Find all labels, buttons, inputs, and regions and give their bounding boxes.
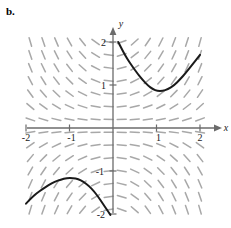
slope-field-segment [55, 206, 59, 214]
slope-field-segment [185, 180, 189, 188]
slope-field-segment [27, 104, 34, 110]
slope-field-segment [171, 167, 177, 174]
slope-field-segment [172, 206, 175, 214]
slope-field-segment [78, 132, 87, 133]
slope-field-segment [198, 77, 202, 85]
slope-field-segment [117, 80, 126, 82]
slope-field-segment [131, 92, 139, 95]
slope-field-segment [172, 193, 176, 201]
slope-field-segment [91, 79, 99, 82]
slope-field-segment [131, 194, 138, 199]
slope-field-segment [131, 79, 139, 83]
slope-field-segment [145, 51, 151, 58]
slope-field-segment [117, 208, 126, 211]
slope-field-layer [26, 38, 205, 214]
slope-field-segment [144, 156, 152, 160]
slope-field-segment [104, 158, 113, 159]
slope-field-segment [117, 158, 126, 159]
slope-field-segment [185, 51, 188, 59]
slope-field-segment [79, 78, 86, 83]
slope-field-segment [196, 118, 204, 121]
x-tick-label: 2 [198, 132, 203, 143]
slope-field-segment [91, 92, 100, 95]
slope-field-segment [198, 180, 202, 188]
x-tick-label: -1 [67, 132, 75, 143]
y-tick-label: 2 [101, 37, 106, 48]
slope-field-segment [185, 77, 190, 85]
slope-field-segment [52, 118, 61, 120]
slope-field-segment [27, 155, 33, 162]
slope-field-segment [80, 206, 86, 213]
slope-field-segment [29, 205, 32, 214]
slope-field-segment [185, 167, 190, 175]
slope-field-segment [143, 119, 152, 120]
slope-field-segment [104, 93, 113, 94]
slope-field-segment [42, 51, 45, 59]
slope-field-segment [41, 64, 45, 72]
x-tick-label: 1 [156, 132, 161, 143]
slope-field-segment [197, 103, 204, 109]
slope-field-segment [172, 180, 177, 188]
slope-field-segment [199, 38, 201, 47]
slope-field-segment [186, 205, 189, 214]
slope-field-segment [42, 205, 45, 213]
slope-field-segment [158, 168, 164, 174]
slope-field-segment [185, 193, 188, 201]
slope-field-segment [170, 104, 178, 109]
slope-field-segment [183, 143, 191, 148]
slope-field-segment [39, 118, 48, 121]
slope-field-segment [78, 119, 87, 120]
slope-field-segment [79, 169, 87, 174]
slope-field-segment [183, 118, 192, 121]
slope-field-segment [130, 144, 139, 146]
slope-field-segment [197, 90, 202, 97]
slope-field-segment [198, 167, 202, 175]
slope-field-segment [184, 155, 190, 162]
slope-field-segment [53, 104, 61, 109]
slope-field-segment [144, 91, 152, 96]
slope-field-segment [66, 156, 74, 161]
slope-field-segment [143, 144, 152, 147]
y-tick-label: -1 [96, 166, 104, 177]
slope-field-segment [78, 105, 87, 108]
slope-field-segment [80, 52, 86, 59]
slope-field-segment [117, 196, 126, 199]
slope-field-segment [145, 38, 150, 45]
slope-field-segment [92, 66, 100, 70]
slope-field-segment [157, 104, 165, 108]
slope-field-segment [172, 51, 176, 59]
slope-field-segment [196, 143, 203, 148]
x-axis-arrowhead [214, 125, 222, 132]
slope-field-segment [144, 105, 152, 108]
slope-field-segment [104, 54, 113, 55]
slope-field-segment [29, 51, 32, 60]
slope-field-segment [54, 64, 59, 72]
slope-field-segment [78, 156, 86, 160]
slope-field-segment [55, 38, 59, 46]
slope-field-segment [117, 183, 126, 185]
slope-field-segment [158, 77, 164, 84]
slope-field-segment [145, 193, 151, 200]
slope-field-segment [78, 144, 87, 146]
slope-field-segment [79, 65, 86, 71]
slope-field-segment [145, 181, 152, 187]
slope-field-segment [39, 132, 48, 133]
slope-field-segment [40, 143, 48, 148]
slope-field-segment [40, 155, 46, 161]
slope-field-segment [26, 118, 34, 121]
y-tick-label: 1 [101, 80, 106, 91]
slope-field-segment [65, 105, 73, 109]
slope-field-segment [29, 64, 32, 72]
slope-field-segment [29, 38, 32, 47]
slope-field-segment [66, 78, 72, 84]
slope-field-segment [54, 51, 58, 59]
slope-field-segment [28, 167, 32, 175]
slope-field-segment [145, 206, 150, 213]
slope-field-segment [197, 155, 203, 162]
slope-field-segment [79, 92, 87, 96]
slope-field-chart: -2-11221-1-2xy [0, 0, 231, 228]
slope-field-segment [29, 180, 33, 188]
x-tick-label: -2 [22, 132, 30, 143]
slope-field-segment [91, 119, 100, 120]
slope-field-segment [91, 106, 100, 108]
